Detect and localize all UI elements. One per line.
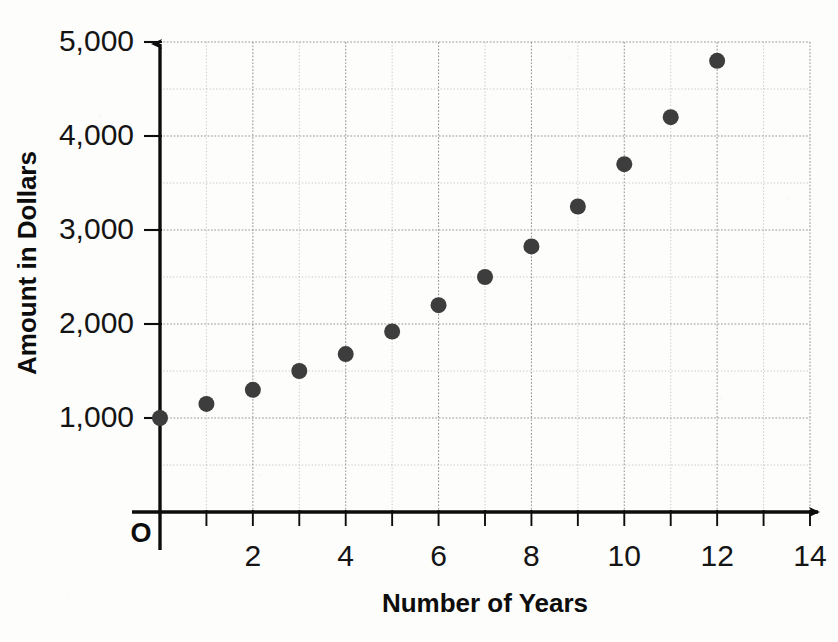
data-point [570, 199, 586, 215]
data-point [198, 396, 214, 412]
y-axis-tick-label: 3,000 [59, 212, 134, 245]
data-point [291, 363, 307, 379]
data-point [338, 346, 354, 362]
data-point [384, 324, 400, 340]
origin-label: O [130, 518, 151, 548]
x-axis-tick-label: 8 [523, 539, 540, 572]
axis-lines [132, 44, 818, 550]
y-axis-tick-labels: 1,0002,0003,0004,0005,000 [59, 24, 134, 433]
x-axis-tick-label: 14 [793, 539, 826, 572]
data-point [523, 238, 539, 254]
x-axis-tick-label: 10 [608, 539, 641, 572]
axis-tick-marks [144, 42, 810, 526]
y-axis-tick-label: 1,000 [59, 400, 134, 433]
y-axis-tick-label: 4,000 [59, 118, 134, 151]
plot-canvas: 1,0002,0003,0004,0005,000 2468101214 O N… [0, 0, 838, 642]
data-point [616, 156, 632, 172]
data-point [663, 109, 679, 125]
y-axis-tick-label: 2,000 [59, 306, 134, 339]
data-point [477, 269, 493, 285]
x-axis-tick-label: 2 [245, 539, 262, 572]
data-point [431, 297, 447, 313]
y-axis-tick-label: 5,000 [59, 24, 134, 57]
x-axis-tick-label: 6 [430, 539, 447, 572]
data-point [152, 410, 168, 426]
x-axis-title: Number of Years [382, 588, 588, 618]
scatter-chart: 1,0002,0003,0004,0005,000 2468101214 O N… [0, 0, 838, 642]
x-axis-tick-label: 4 [337, 539, 354, 572]
x-axis-tick-label: 12 [700, 539, 733, 572]
data-point [709, 53, 725, 69]
x-axis-tick-labels: 2468101214 [245, 539, 827, 572]
data-point [245, 382, 261, 398]
y-axis-title: Amount in Dollars [12, 151, 42, 375]
